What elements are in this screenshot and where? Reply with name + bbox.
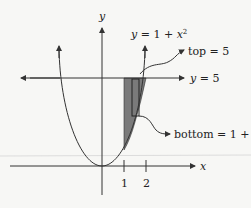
scan-artifact-line — [0, 155, 251, 156]
bottom-label: bottom = 1 + x2 — [174, 128, 251, 141]
tick-label-2: 2 — [143, 177, 150, 190]
area-between-curves-diagram: y x y = 1 + x2 top = 5 y = 5 bottom = 1 … — [0, 0, 251, 208]
tick-label-1: 1 — [121, 177, 128, 190]
line-y5-label: y = 5 — [189, 72, 219, 85]
bottom-pointer-arrow — [139, 116, 170, 134]
y-axis-label: y — [98, 10, 106, 23]
top-label: top = 5 — [188, 45, 229, 58]
top-pointer-arrow — [140, 50, 184, 74]
curve-label: y = 1 + x2 — [130, 28, 187, 41]
x-axis-label: x — [200, 160, 207, 173]
